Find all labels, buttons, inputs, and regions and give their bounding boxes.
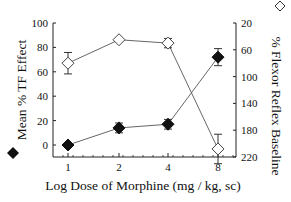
x-tick-label: 1 [65,161,71,173]
data-markers [62,34,224,155]
x-axis-title: Log Dose of Morphine (mg / kg, sc) [45,178,241,193]
y2-tick-label: 60 [241,44,253,56]
open-diamond-marker [113,34,125,46]
y-axis-title: Mean % TF Effect [14,40,29,141]
legend-filled-diamond-icon [7,147,19,159]
legend-open-diamond-icon [275,1,285,11]
y2-tick-label: 220 [241,151,258,163]
y2-tick-label: 100 [241,71,258,83]
open-diamond-marker [62,57,74,69]
filled-diamond-marker [113,122,125,134]
y-tick-label: 20 [37,115,49,127]
y-tick-label: 80 [37,41,49,53]
y2-tick-label: 20 [241,17,253,29]
y-tick-label: 60 [37,66,49,78]
y2-axis-title: % Flexor Reflex Baseline [269,36,284,175]
y2-tick-label: 140 [241,97,258,109]
y-tick-label: 100 [32,17,49,29]
y-tick-label: 0 [43,139,49,151]
open-diamond-marker [162,37,174,49]
filled-diamond-marker [212,51,224,63]
x-tick-label: 4 [165,161,171,173]
chart: 02040608010020601001401802201248 Mean % … [0,0,291,202]
filled-diamond-marker [62,139,74,151]
y-tick-label: 40 [37,90,49,102]
filled-diamond-marker [162,118,174,130]
x-tick-label: 2 [116,161,122,173]
open-diamond-marker [212,143,224,155]
y2-tick-label: 180 [241,124,258,136]
series-lines [64,38,222,163]
